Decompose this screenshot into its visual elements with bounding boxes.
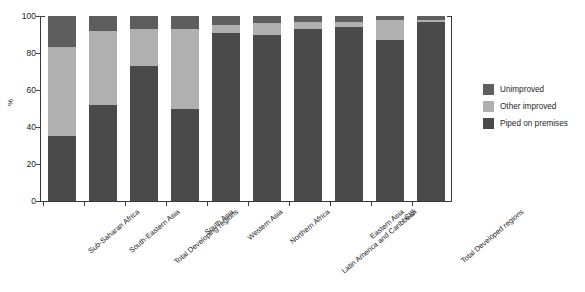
bar-group[interactable]: [294, 16, 322, 201]
bar-segment: [171, 16, 199, 29]
bar-stack: [212, 16, 240, 201]
legend-label: Piped on premises: [500, 119, 568, 128]
legend-swatch-icon: [483, 84, 494, 95]
x-tick-mark: [371, 202, 372, 206]
x-tick-mark: [207, 202, 208, 206]
bar-group[interactable]: [89, 16, 117, 201]
bar-segment: [130, 16, 158, 29]
bar-stack: [171, 16, 199, 201]
bar-segment: [294, 22, 322, 29]
x-tick-mark: [330, 202, 331, 206]
bar-segment: [48, 136, 76, 201]
bar-segment: [417, 22, 445, 201]
x-tick-mark: [43, 202, 44, 206]
x-label-4: Western Asia: [246, 208, 284, 242]
bar-stack: [417, 16, 445, 201]
y-tick-label-40: 40: [14, 123, 36, 132]
bar-segment: [294, 29, 322, 201]
y-tick-label-0: 0: [14, 197, 36, 206]
bar-segment: [253, 23, 281, 34]
legend-swatch-icon: [483, 101, 494, 112]
bar-segment: [130, 29, 158, 66]
bar-group[interactable]: [212, 16, 240, 201]
x-tick-mark: [289, 202, 290, 206]
bar-stack: [253, 16, 281, 201]
bar-segment: [171, 109, 199, 202]
bar-segment: [212, 33, 240, 201]
bar-stack: [294, 16, 322, 201]
y-axis-tick-labels: 020406080100: [12, 0, 36, 292]
legend-item[interactable]: Piped on premises: [483, 116, 583, 131]
legend-item[interactable]: Unimproved: [483, 82, 583, 97]
bar-segment: [171, 29, 199, 109]
bar-segment: [376, 40, 404, 201]
y-tick-label-60: 60: [14, 86, 36, 95]
bar-segment: [89, 105, 117, 201]
y-tick-label-80: 80: [14, 49, 36, 58]
legend-item[interactable]: Other improved: [483, 99, 583, 114]
bar-segment: [212, 16, 240, 25]
bar-segment: [130, 66, 158, 201]
chart-legend: UnimprovedOther improvedPiped on premise…: [483, 82, 583, 133]
bar-segment: [253, 35, 281, 202]
x-tick-mark: [125, 202, 126, 206]
bar-group[interactable]: [417, 16, 445, 201]
bar-segment: [253, 16, 281, 23]
bar-stack: [130, 16, 158, 201]
y-tick-label-100: 100: [14, 12, 36, 21]
bar-group[interactable]: [253, 16, 281, 201]
bar-segment: [48, 47, 76, 136]
bar-stack: [376, 16, 404, 201]
x-tick-mark: [84, 202, 85, 206]
bar-segment: [48, 16, 76, 47]
bar-segment: [376, 20, 404, 40]
bar-group[interactable]: [376, 16, 404, 201]
bar-stack: [48, 16, 76, 201]
x-axis-line: [40, 201, 452, 202]
x-tick-mark: [412, 202, 413, 206]
x-label-5: Northern Africa: [288, 208, 331, 246]
bar-group[interactable]: [171, 16, 199, 201]
legend-label: Other improved: [500, 102, 556, 111]
bar-stack: [335, 16, 363, 201]
stacked-bar-chart: % 020406080100 Sub-Saharan AfricaSouth-E…: [0, 0, 585, 292]
legend-label: Unimproved: [500, 85, 544, 94]
x-tick-mark: [166, 202, 167, 206]
bar-group[interactable]: [130, 16, 158, 201]
right-axis-line: [451, 16, 452, 201]
bar-segment: [335, 27, 363, 201]
bar-group[interactable]: [48, 16, 76, 201]
bar-segment: [212, 25, 240, 32]
bar-segment: [89, 16, 117, 31]
bar-stack: [89, 16, 117, 201]
y-tick-label-20: 20: [14, 160, 36, 169]
bar-group[interactable]: [335, 16, 363, 201]
bar-segment: [89, 31, 117, 105]
plot-area: [41, 16, 451, 201]
x-tick-mark: [248, 202, 249, 206]
legend-swatch-icon: [483, 118, 494, 129]
x-label-9: Total Developed regions: [459, 208, 525, 265]
